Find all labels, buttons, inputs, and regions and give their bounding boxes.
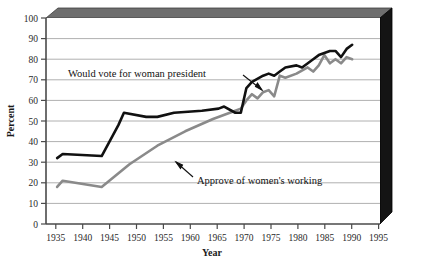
y-tick-label: 70 bbox=[29, 75, 39, 85]
x-tick-label: 1965 bbox=[208, 233, 227, 243]
x-tick-label: 1985 bbox=[315, 233, 334, 243]
chart-canvas: 100 90 80 70 60 50 40 30 20 10 0 1935 19… bbox=[0, 0, 428, 266]
x-tick-label: 1955 bbox=[154, 233, 173, 243]
x-tick-label: 1960 bbox=[181, 233, 200, 243]
y-tick-label: 50 bbox=[29, 117, 39, 127]
x-tick-label: 1970 bbox=[235, 233, 254, 243]
y-tick-label: 80 bbox=[29, 55, 39, 65]
x-axis-title: Year bbox=[202, 247, 223, 258]
annotation-label-vote-woman-president: Would vote for woman president bbox=[68, 68, 206, 79]
y-tick-label: 100 bbox=[24, 14, 39, 24]
x-tick-label: 1940 bbox=[73, 233, 92, 243]
y-tick-label: 0 bbox=[33, 220, 38, 230]
y-tick-label: 60 bbox=[29, 96, 39, 106]
x-tick-label: 1945 bbox=[100, 233, 119, 243]
chart-frame-top-band bbox=[46, 8, 392, 18]
y-tick-label: 90 bbox=[29, 34, 39, 44]
annotation-label-approve-women-working: Approve of women's working bbox=[197, 175, 323, 186]
x-tick-label: 1995 bbox=[369, 233, 388, 243]
x-tick-label: 1975 bbox=[262, 233, 281, 243]
y-tick-label: 10 bbox=[29, 199, 39, 209]
y-axis-tick-labels: 100 90 80 70 60 50 40 30 20 10 0 bbox=[24, 14, 39, 230]
x-axis-tick-labels: 1935 1940 1945 1950 1955 1960 1965 1970 … bbox=[46, 233, 388, 243]
y-axis-title: Percent bbox=[5, 104, 16, 137]
y-tick-label: 30 bbox=[29, 158, 39, 168]
x-tick-label: 1935 bbox=[46, 233, 65, 243]
x-tick-label: 1980 bbox=[288, 233, 307, 243]
x-tick-label: 1990 bbox=[342, 233, 361, 243]
y-tick-label: 20 bbox=[29, 178, 39, 188]
y-tick-label: 40 bbox=[29, 137, 39, 147]
chart-figure: 100 90 80 70 60 50 40 30 20 10 0 1935 19… bbox=[0, 0, 428, 266]
x-tick-label: 1950 bbox=[127, 233, 146, 243]
chart-frame-right-band bbox=[380, 8, 392, 224]
